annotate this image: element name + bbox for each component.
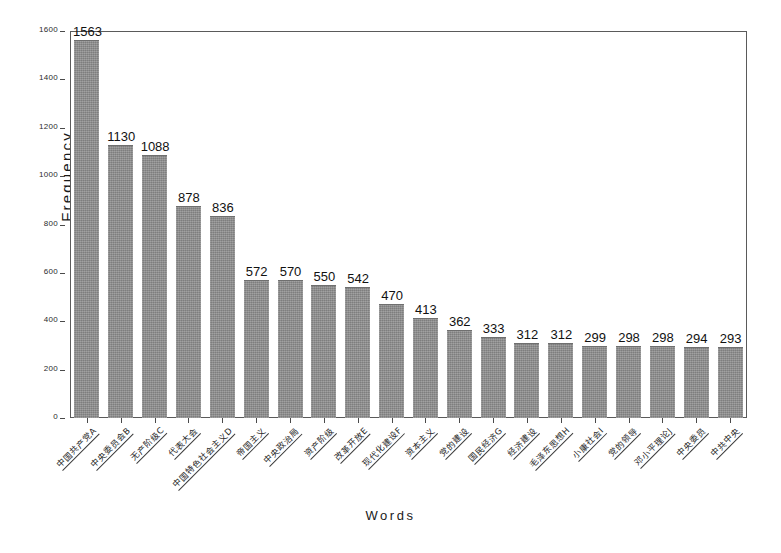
bar [684,347,709,418]
bar-group: 470 [379,31,404,418]
bar [278,280,303,418]
bar [311,285,336,418]
y-axis-tick-label: 800 [44,219,58,228]
y-axis-tick-label: 1000 [39,170,58,179]
bar-group: 550 [311,31,336,418]
bar-group: 572 [244,31,269,418]
y-axis-tick-mark [60,370,65,371]
y-axis-tick-mark [60,31,65,32]
y-axis-tick-mark [60,418,65,419]
bar-value-label: 836 [201,200,245,215]
x-axis-tick-label: 中央委员 [673,424,709,460]
bar-series: 1563113010888788365725705505424704133623… [70,31,747,418]
x-axis-tick-mark [459,418,460,423]
x-axis-tick-mark [358,418,359,423]
y-axis-tick-label: 400 [44,315,58,324]
x-axis-tick-mark [87,418,88,423]
bar-group: 878 [176,31,201,418]
bar [176,206,201,418]
bar-group: 298 [616,31,641,418]
bar-group: 312 [548,31,573,418]
bar [345,287,370,418]
x-axis-tick-label: 资本主义 [402,424,438,460]
x-axis-tick-mark [155,418,156,423]
bar [718,347,743,418]
bar-group: 542 [345,31,370,418]
x-axis-tick-mark [561,418,562,423]
bar-value-label: 470 [370,288,414,303]
bar-group: 312 [514,31,539,418]
y-axis-tick-label: 1400 [39,73,58,82]
bar-group: 836 [210,31,235,418]
y-axis-tick-label: 0 [53,412,58,421]
y-axis-tick: 800 [0,225,70,226]
y-axis-tick-mark [60,79,65,80]
x-axis-tick-label: 国民经济G [465,424,506,465]
x-axis-tick-mark [696,418,697,423]
bar-group: 294 [684,31,709,418]
x-axis-tick-mark [662,418,663,423]
bar-group: 293 [718,31,743,418]
bar [548,343,573,418]
y-axis-tick-mark [60,273,65,274]
x-axis-title: Words [0,508,781,523]
bar-chart-figure: Frequency 02004006008001000120014001600 … [0,0,781,553]
y-axis-tick: 400 [0,321,70,322]
x-axis-tick-mark [290,418,291,423]
y-axis-tick: 1200 [0,128,70,129]
bar [108,145,133,418]
x-axis-labels: 中国共产党A中央委员会B无产阶级C代表大会中国特色社会主义D帝国主义中央政治局资… [70,424,747,504]
bar-group: 570 [278,31,303,418]
y-axis-tick: 1600 [0,31,70,32]
x-axis-tick-mark [425,418,426,423]
bar [616,346,641,418]
bar-group: 1088 [142,31,167,418]
x-axis-tick-label: 中共中央 [707,424,743,460]
x-axis-tick-mark [188,418,189,423]
x-axis-tick-mark [222,418,223,423]
y-axis-tick-mark [60,321,65,322]
x-axis-tick-mark [629,418,630,423]
bar [379,304,404,418]
bar-group: 413 [413,31,438,418]
y-axis-tick-label: 600 [44,267,58,276]
bar [447,330,472,418]
bar [244,280,269,418]
bar-group: 333 [481,31,506,418]
x-axis-tick-mark [256,418,257,423]
y-axis-tick-label: 1600 [39,25,58,34]
bar [481,337,506,418]
x-axis-tick-label: 中国特色社会主义D [169,424,236,491]
x-axis-tick-label: 小康社会I [569,424,607,462]
bar-value-label: 293 [709,331,753,346]
bar [514,343,539,418]
x-axis-tick-mark [121,418,122,423]
bar-group: 362 [447,31,472,418]
y-axis-tick-mark [60,176,65,177]
bar-group: 299 [582,31,607,418]
bar [650,346,675,418]
bar [413,318,438,418]
y-axis-tick-label: 200 [44,364,58,373]
y-axis-tick-mark [60,128,65,129]
bar-group: 1130 [108,31,133,418]
bar [210,216,235,418]
x-axis-tick-mark [392,418,393,423]
bar-value-label: 1563 [65,24,109,39]
x-axis-tick-mark [493,418,494,423]
x-axis-tick-mark [595,418,596,423]
x-axis-tick-mark [730,418,731,423]
bar [74,40,99,418]
bar-value-label: 542 [336,271,380,286]
bar-group: 1563 [74,31,99,418]
y-axis-tick: 600 [0,273,70,274]
bar-value-label: 1088 [133,139,177,154]
y-axis-tick: 1000 [0,176,70,177]
y-axis-tick: 200 [0,370,70,371]
x-axis-tick-mark [527,418,528,423]
bar [582,346,607,418]
bar [142,155,167,418]
y-axis-tick-mark [60,225,65,226]
x-axis-tick-label: 无产阶级C [127,424,167,464]
y-axis-tick: 1400 [0,79,70,80]
